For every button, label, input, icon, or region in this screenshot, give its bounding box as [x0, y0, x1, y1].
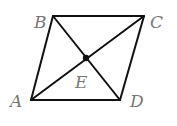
edge-cd — [120, 16, 144, 100]
intersection-label-e: E — [74, 72, 88, 92]
intersection-point-e — [83, 55, 89, 61]
vertex-label-c: C — [150, 12, 163, 32]
parallelogram-diagram: A B C D E — [0, 0, 177, 126]
vertex-label-d: D — [129, 91, 144, 111]
vertex-label-b: B — [33, 12, 47, 32]
vertex-label-a: A — [8, 91, 22, 111]
